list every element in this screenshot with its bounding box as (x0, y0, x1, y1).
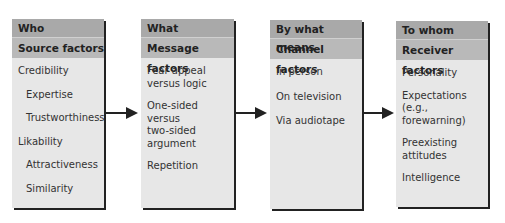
column-question: By what means (270, 20, 362, 38)
channel-factors-box: By what means Channel factors In person … (270, 20, 362, 209)
factor-item: Preexisting attitudes (402, 137, 482, 162)
column-factor-title: Message factors (141, 37, 234, 58)
arrow-right-icon (364, 112, 392, 114)
factor-item: Credibility (18, 65, 98, 78)
factor-subitem: Similarity (18, 183, 98, 196)
arrow-right-icon (236, 112, 265, 114)
factor-subitem: Expertise (18, 89, 98, 102)
arrow-right-icon (106, 112, 136, 114)
column-factor-title: Receiver factors (396, 39, 488, 60)
factor-item: Personality (402, 67, 482, 80)
factor-item: Intelligence (402, 172, 482, 185)
factor-subitem: Attractiveness (18, 159, 98, 172)
factor-item: Likability (18, 136, 98, 149)
factor-item: Fear appeal versus logic (147, 65, 228, 90)
column-question: What (141, 19, 234, 37)
column-factor-title: Channel factors (270, 38, 362, 59)
factor-subitem: Trustworthiness (18, 112, 98, 125)
factor-item: In person (276, 66, 356, 79)
factor-item: One-sided versus two-sided argument (147, 100, 228, 150)
column-factor-title: Source factors (12, 37, 104, 58)
factor-item: Expectations (e.g., forewarning) (402, 90, 482, 128)
receiver-factors-box: To whom Receiver factors Personality Exp… (396, 21, 488, 207)
message-factors-box: What Message factors Fear appeal versus … (141, 19, 234, 208)
source-factors-box: Who Source factors Credibility Expertise… (12, 19, 104, 208)
column-question: Who (12, 19, 104, 37)
factor-item: On television (276, 91, 356, 104)
column-question: To whom (396, 21, 488, 39)
factor-item: Via audiotape (276, 115, 356, 128)
factor-item: Repetition (147, 160, 228, 173)
